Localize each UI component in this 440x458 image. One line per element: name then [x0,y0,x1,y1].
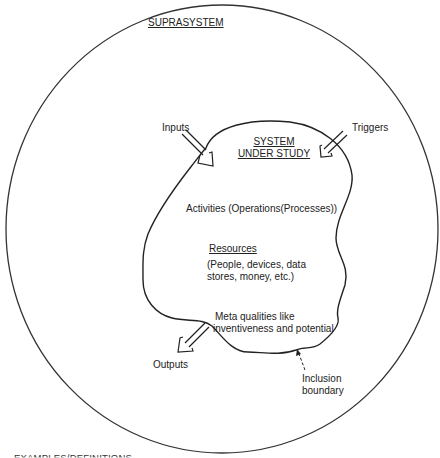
suprasystem-circle [6,5,438,453]
inputs-label: Inputs [162,122,189,134]
activities-label: Activities (Operations(Processes)) [186,203,337,215]
triggers-label: Triggers [352,122,388,134]
inclusion-pointer-icon [296,349,305,370]
inclusion-boundary-line1: Inclusion [302,373,341,385]
suprasystem-title: SUPRASYSTEM [148,17,224,29]
resources-title: Resources [209,243,257,255]
outputs-arrow-icon [178,323,209,352]
resources-line1: (People, devices, data [207,259,306,271]
footer-partial-text: EXAMPLES/DEFINITIONS [14,452,132,458]
resources-line2: stores, money, etc.) [207,271,294,283]
system-title-line1: SYSTEM [234,136,314,148]
triggers-arrow-icon [320,131,347,157]
system-title-line2: UNDER STUDY [234,148,314,160]
meta-qualities-line1: Meta qualities like [215,311,294,323]
diagram-canvas [0,0,440,458]
outputs-label: Outputs [153,359,188,371]
inclusion-boundary-line2: boundary [302,385,344,397]
inputs-arrow-icon [182,130,213,166]
meta-qualities-line2: inventiveness and potential [213,323,334,335]
